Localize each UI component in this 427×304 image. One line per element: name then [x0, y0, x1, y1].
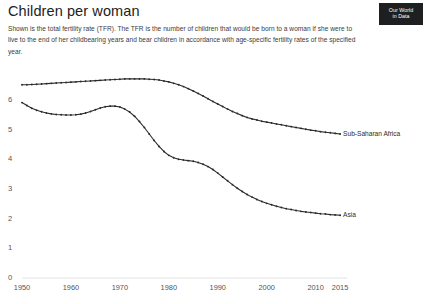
plot-area [0, 52, 427, 304]
chart-title: Children per woman [8, 4, 368, 20]
y-axis-tick-label: 1 [8, 243, 24, 252]
x-axis-tick-label: 2000 [250, 283, 284, 292]
y-axis-tick-label: 3 [8, 184, 24, 193]
y-axis-tick-label: 5 [8, 125, 24, 134]
x-axis-tick-label: 2015 [323, 283, 357, 292]
x-axis-tick-label: 1950 [5, 283, 39, 292]
x-axis-tick-label: 1970 [103, 283, 137, 292]
x-axis-tick-label: 1990 [201, 283, 235, 292]
x-axis-tick-label: 1980 [152, 283, 186, 292]
our-world-in-data-logo[interactable]: Our World in Data [379, 3, 423, 25]
plot-svg [0, 52, 427, 304]
y-axis-tick-label: 2 [8, 214, 24, 223]
chart-header: Children per woman Shown is the total fe… [8, 4, 368, 57]
logo-line-2: in Data [392, 14, 409, 20]
y-axis-tick-label: 4 [8, 154, 24, 163]
series-label-asia: Asia [343, 211, 356, 218]
series-label-sub-saharan-africa: Sub-Saharan Africa [343, 130, 400, 137]
y-axis-tick-label: 6 [8, 95, 24, 104]
y-axis-tick-label: 0 [8, 273, 24, 282]
chart-container: Children per woman Shown is the total fe… [0, 0, 427, 304]
x-axis-tick-label: 1960 [54, 283, 88, 292]
